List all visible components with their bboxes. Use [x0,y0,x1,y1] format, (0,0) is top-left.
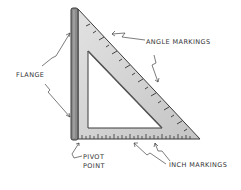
inch-markings-arrow-1 [134,143,166,164]
pivot-point-label-line2: POINT [83,162,105,170]
flange-lower-arrow [45,84,70,117]
inch-markings-label: INCH MARKINGS [169,161,227,169]
square-body [78,9,200,139]
angle-markings-arrow [112,33,145,40]
pivot-point-label-line1: PIVOT [83,153,104,161]
flange-upper-arrow [42,33,70,66]
flange-label: FLANGE [16,71,44,79]
pivot-point-arrow [72,143,82,158]
angle-markings-label: ANGLE MARKINGS [146,38,211,46]
